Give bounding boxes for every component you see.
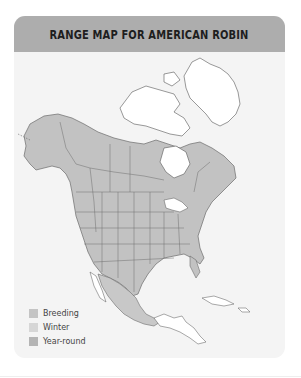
legend-item-year-round: Year-round <box>29 334 86 348</box>
year-round-swatch <box>29 337 38 346</box>
legend-label: Breeding <box>43 309 79 318</box>
legend-item-breeding: Breeding <box>29 306 86 320</box>
arctic-islands <box>120 86 190 136</box>
north-america-range <box>24 114 236 296</box>
central-america <box>154 314 206 344</box>
legend-item-winter: Winter <box>29 320 86 334</box>
greenland <box>184 58 240 126</box>
map-title: RANGE MAP FOR AMERICAN ROBIN <box>50 27 249 42</box>
legend-label: Winter <box>43 323 69 332</box>
range-map-card: RANGE MAP FOR AMERICAN ROBIN <box>14 16 285 358</box>
legend-label: Year-round <box>43 337 86 346</box>
breeding-swatch <box>29 309 38 318</box>
winter-swatch <box>29 323 38 332</box>
card-header: RANGE MAP FOR AMERICAN ROBIN <box>14 16 285 52</box>
map-legend: Breeding Winter Year-round <box>29 306 86 348</box>
divider <box>0 376 301 377</box>
